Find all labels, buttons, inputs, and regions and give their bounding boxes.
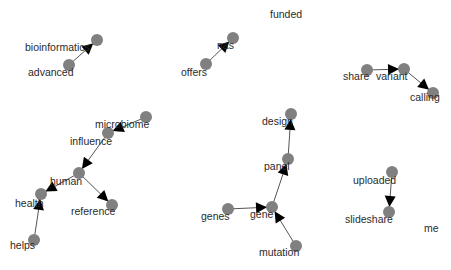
node-label-variant: variant: [376, 70, 408, 82]
arrowhead-icon: [385, 196, 396, 207]
isolated-label-funded: funded: [270, 8, 302, 20]
node-label-uploaded: uploaded: [353, 174, 396, 186]
node-label-slideshare: slideshare: [345, 213, 393, 225]
node-label-nas: nas: [217, 39, 234, 51]
node-label-panel: panel: [264, 160, 290, 172]
node-label-offers: offers: [181, 66, 207, 78]
node-label-bioinformatics: bioinformatics: [25, 41, 90, 53]
node-bioinformatics[interactable]: [91, 34, 103, 46]
node-label-reference: reference: [71, 205, 115, 217]
isolated-label-me: me: [424, 222, 439, 234]
node-label-health: health: [15, 197, 44, 209]
node-label-gene: gene: [250, 208, 273, 220]
arrowhead-icon: [417, 79, 429, 90]
node-label-human: human: [50, 175, 82, 187]
node-label-mutation: mutation: [259, 246, 299, 258]
node-label-calling: calling: [410, 91, 440, 103]
arrowhead-icon: [82, 157, 93, 169]
node-label-genes: genes: [201, 210, 230, 222]
node-label-design: design: [262, 115, 293, 127]
node-label-microbiome: microbiome: [95, 118, 149, 130]
node-label-advanced: advanced: [28, 66, 74, 78]
arrowhead-icon: [275, 211, 286, 223]
node-label-influence: influence: [70, 135, 112, 147]
node-label-share: share: [343, 70, 369, 82]
node-label-helps: helps: [10, 239, 35, 251]
